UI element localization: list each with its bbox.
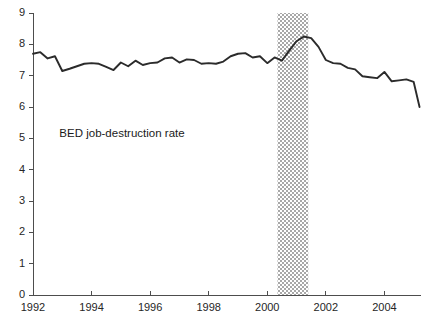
y-tick-label: 7 bbox=[19, 69, 25, 81]
series-line-bed-job-destruction-rate bbox=[33, 37, 420, 108]
x-tick-label: 1998 bbox=[196, 301, 220, 313]
series-annotation-label: BED job-destruction rate bbox=[59, 127, 184, 139]
x-tick-label: 1992 bbox=[21, 301, 45, 313]
recession-band bbox=[278, 13, 309, 295]
x-tick-label: 2000 bbox=[255, 301, 279, 313]
x-tick-label: 2002 bbox=[314, 301, 338, 313]
x-tick-label: 2004 bbox=[372, 301, 396, 313]
y-tick-label: 8 bbox=[19, 37, 25, 49]
recession-band bbox=[278, 13, 309, 295]
data-series-group bbox=[33, 37, 420, 108]
y-tick-label: 1 bbox=[19, 257, 25, 269]
chart-container: 0123456789 1992199419961998200020022004 … bbox=[0, 0, 433, 330]
y-tick-label: 5 bbox=[19, 131, 25, 143]
y-tick-label: 2 bbox=[19, 225, 25, 237]
y-tick-label: 0 bbox=[19, 288, 25, 300]
line-chart: 0123456789 1992199419961998200020022004 … bbox=[0, 0, 433, 330]
y-axis-ticks: 0123456789 bbox=[19, 6, 33, 300]
x-tick-label: 1994 bbox=[79, 301, 103, 313]
y-tick-label: 9 bbox=[19, 6, 25, 18]
x-axis-ticks: 1992199419961998200020022004 bbox=[21, 291, 397, 313]
y-tick-label: 6 bbox=[19, 100, 25, 112]
y-tick-label: 3 bbox=[19, 194, 25, 206]
x-tick-label: 1996 bbox=[138, 301, 162, 313]
y-tick-label: 4 bbox=[19, 163, 25, 175]
